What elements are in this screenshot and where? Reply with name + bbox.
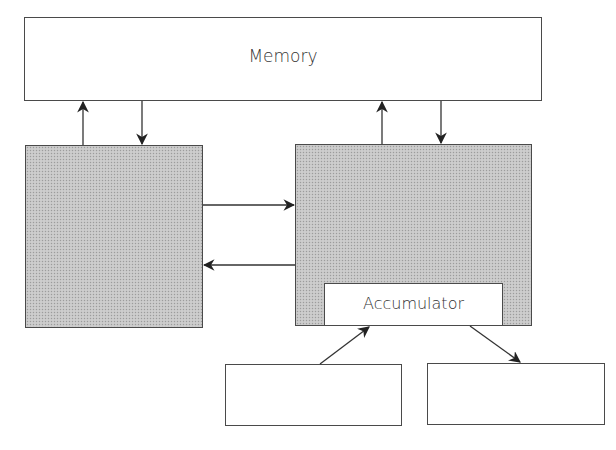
arrow-accumulator-to-bottomright xyxy=(470,326,520,362)
arrow-bottomleft-to-accumulator xyxy=(320,327,369,364)
left-unit-box xyxy=(25,145,203,328)
accumulator-label: Accumulator xyxy=(325,294,502,313)
accumulator-box: Accumulator xyxy=(324,283,503,326)
bottom-left-box xyxy=(225,364,402,426)
memory-box: Memory xyxy=(24,17,542,101)
memory-label: Memory xyxy=(25,46,541,66)
bottom-right-box xyxy=(427,363,605,425)
